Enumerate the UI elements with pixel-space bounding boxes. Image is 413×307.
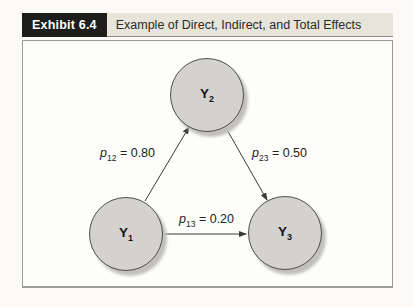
path-coefficient-p12: p12 = 0.80 xyxy=(100,147,155,162)
p13-subscript: 13 xyxy=(186,219,195,229)
exhibit-figure: Exhibit 6.4 Example of Direct, Indirect,… xyxy=(0,0,413,307)
exhibit-number-label: Exhibit 6.4 xyxy=(22,13,107,37)
node-y2-label: Y2 xyxy=(200,87,214,104)
p13-symbol: p xyxy=(179,212,186,226)
p23-value: = 0.50 xyxy=(272,146,307,160)
p12-value: = 0.80 xyxy=(120,146,155,160)
node-y2: Y2 xyxy=(170,58,244,132)
node-y1: Y1 xyxy=(89,197,163,271)
p23-symbol: p xyxy=(252,146,259,160)
node-y3-label: Y3 xyxy=(278,225,292,242)
node-y1-label: Y1 xyxy=(119,226,133,243)
p13-value: = 0.20 xyxy=(199,212,234,226)
p12-subscript: 12 xyxy=(107,153,116,163)
p23-subscript: 23 xyxy=(259,153,268,163)
exhibit-title: Example of Direct, Indirect, and Total E… xyxy=(107,13,393,37)
p12-symbol: p xyxy=(100,146,107,160)
path-coefficient-p23: p23 = 0.50 xyxy=(252,147,307,162)
path-coefficient-p13: p13 = 0.20 xyxy=(179,213,234,228)
node-y3: Y3 xyxy=(248,196,322,270)
exhibit-header: Exhibit 6.4 Example of Direct, Indirect,… xyxy=(22,13,393,37)
